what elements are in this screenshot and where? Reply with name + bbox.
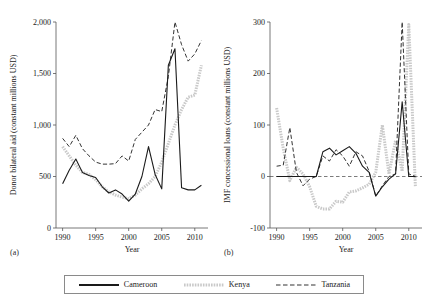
- x-tick-label: 1995: [88, 233, 104, 242]
- x-tick-label: 1990: [269, 233, 285, 242]
- y-tick-label: 100: [253, 121, 265, 130]
- figure-container: Donor bilateral aid 05001,0001,5002,0001…: [0, 0, 428, 305]
- legend-label-cameroon: Cameroon: [124, 280, 157, 289]
- y-axis-title: IMF concessional loans (constant million…: [223, 47, 232, 204]
- line-solid-icon: [78, 280, 120, 290]
- panel-label-a: (a): [10, 248, 19, 257]
- legend-label-kenya: Kenya: [229, 280, 250, 289]
- y-tick-label: 500: [39, 172, 51, 181]
- plot-area-b: -100010020030019901995200020052010YearIM…: [214, 0, 428, 262]
- top-mask: [214, 0, 428, 18]
- y-axis-title: Donor bilateral aid (constant millions U…: [9, 54, 18, 195]
- plot-area-a: 05001,0001,5002,00019901995200020052010Y…: [0, 0, 214, 262]
- chart-panel-imf-concessional-lending: IMF concessional leading -10001002003001…: [214, 0, 428, 262]
- x-axis-title: Year: [339, 245, 354, 254]
- legend-entry-cameroon: Cameroon: [78, 280, 157, 290]
- series-line-tanzania: [63, 22, 202, 164]
- line-dashed-icon: [275, 280, 317, 290]
- x-tick-label: 2005: [368, 233, 384, 242]
- x-tick-label: 1990: [55, 233, 71, 242]
- x-tick-label: 2010: [401, 233, 417, 242]
- series-line-kenya: [63, 65, 202, 198]
- legend-entry-kenya: Kenya: [183, 280, 250, 290]
- y-tick-label: 200: [253, 69, 265, 78]
- series-line-kenya: [277, 25, 416, 209]
- chart-panel-donor-bilateral-aid: Donor bilateral aid 05001,0001,5002,0001…: [0, 0, 214, 262]
- top-mask: [0, 0, 214, 18]
- chart-legend: Cameroon Kenya Tanzania: [64, 275, 364, 294]
- x-tick-label: 1995: [302, 233, 318, 242]
- series-line-cameroon: [63, 49, 202, 201]
- y-tick-label: 1,000: [33, 121, 51, 130]
- x-tick-label: 2000: [121, 233, 137, 242]
- line-dotted-icon: [183, 280, 225, 290]
- y-tick-label: 0: [47, 224, 51, 233]
- y-tick-label: 300: [253, 18, 265, 27]
- y-tick-label: 1,500: [33, 69, 51, 78]
- legend-label-tanzania: Tanzania: [321, 280, 350, 289]
- x-tick-label: 2010: [187, 233, 203, 242]
- legend-entry-tanzania: Tanzania: [275, 280, 350, 290]
- panel-label-b: (b): [224, 248, 233, 257]
- x-tick-label: 2000: [335, 233, 351, 242]
- x-tick-label: 2005: [154, 233, 170, 242]
- y-tick-label: -100: [250, 224, 265, 233]
- x-axis-title: Year: [125, 245, 140, 254]
- y-tick-label: 2,000: [33, 18, 51, 27]
- y-tick-label: 0: [261, 172, 265, 181]
